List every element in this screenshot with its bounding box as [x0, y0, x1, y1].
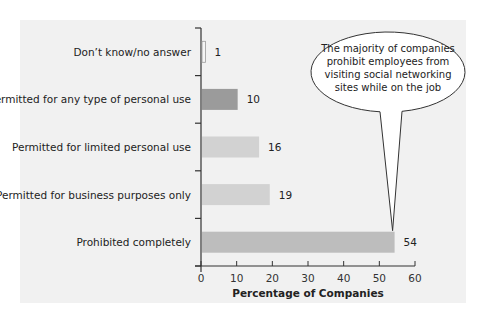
- x-tick-label: 30: [301, 272, 314, 284]
- annotation-text: prohibit employees from: [327, 56, 450, 67]
- annotation-text: The majority of companies: [320, 43, 455, 54]
- x-tick-label: 50: [373, 272, 386, 284]
- category-label: Prohibited completely: [76, 236, 191, 248]
- value-label: 54: [404, 236, 418, 248]
- annotation-bubble: The majority of companiesprohibit employ…: [311, 32, 465, 231]
- category-label: Permitted for any type of personal use: [0, 93, 191, 105]
- x-tick-label: 20: [266, 272, 279, 284]
- annotation-text: visiting social networking: [324, 69, 451, 80]
- bar: [202, 41, 206, 62]
- x-tick-label: 40: [337, 272, 350, 284]
- x-tick-label: 60: [408, 272, 421, 284]
- category-label: Permitted for business purposes only: [0, 189, 191, 201]
- value-label: 10: [247, 93, 260, 105]
- bar-chart: 0102030405060Percentage of CompaniesDon’…: [0, 0, 487, 319]
- x-axis-title: Percentage of Companies: [232, 287, 384, 299]
- annotation-text: sites while on the job: [335, 82, 441, 93]
- x-tick-label: 0: [198, 272, 205, 284]
- value-label: 19: [279, 189, 292, 201]
- bar: [202, 184, 270, 205]
- bar: [202, 89, 238, 110]
- bar: [202, 137, 259, 158]
- category-label: Don’t know/no answer: [73, 46, 191, 58]
- value-label: 1: [215, 46, 222, 58]
- bar: [202, 232, 395, 253]
- value-label: 16: [268, 141, 282, 153]
- x-tick-label: 10: [230, 272, 243, 284]
- category-label: Permitted for limited personal use: [12, 141, 191, 153]
